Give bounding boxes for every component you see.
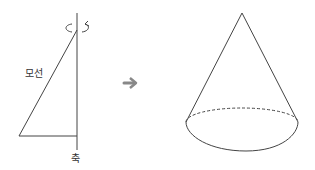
cone-base-back: [186, 108, 298, 122]
generatrix-label: 모선: [25, 65, 43, 80]
axis-label: 축: [71, 150, 80, 165]
right-arrow-icon: [124, 78, 136, 88]
cone-base-front: [186, 122, 298, 151]
generatrix-line: [19, 30, 77, 136]
cone: [186, 13, 298, 151]
diagram-canvas: [0, 0, 315, 170]
